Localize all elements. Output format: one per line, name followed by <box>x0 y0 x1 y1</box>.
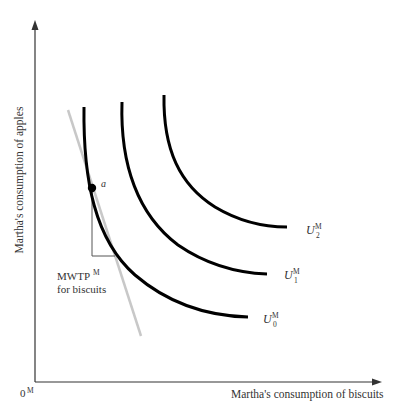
curve-label-u2-sub: 2 <box>316 231 320 240</box>
point-a-label: a <box>101 178 106 189</box>
curve-label-u0: U M 0 <box>263 311 279 329</box>
origin-label: 0 M <box>20 386 34 399</box>
mwtp-label-sup: M <box>93 268 100 277</box>
curve-label-u2-sup: M <box>315 222 322 231</box>
origin-zero: 0 <box>20 387 26 399</box>
mwtp-label-main: MWTP <box>57 270 90 282</box>
curve-label-u2: U M 2 <box>306 222 322 240</box>
x-axis-label: Martha's consumption of biscuits <box>231 388 384 401</box>
curve-label-u0-sup: M <box>272 311 279 320</box>
origin-superscript: M <box>27 386 34 395</box>
mwtp-label-line2: for biscuits <box>57 283 106 295</box>
indifference-curve-u2 <box>164 95 287 227</box>
x-axis-arrow-icon <box>372 379 382 386</box>
tangent-line <box>68 110 141 336</box>
point-a-marker <box>88 184 96 192</box>
curve-label-u1-sub: 1 <box>294 276 298 285</box>
indifference-curve-diagram: a Martha's consumption of apples Martha'… <box>0 0 401 420</box>
curve-label-u1-sup: M <box>293 267 300 276</box>
indifference-curve-u1 <box>122 102 267 274</box>
curve-label-u1: U M 1 <box>284 267 300 285</box>
y-axis-arrow-icon <box>32 20 39 30</box>
curve-label-u0-sub: 0 <box>273 320 277 329</box>
y-axis-label: Martha's consumption of apples <box>13 106 26 253</box>
mwtp-label: MWTP M for biscuits <box>57 268 106 295</box>
